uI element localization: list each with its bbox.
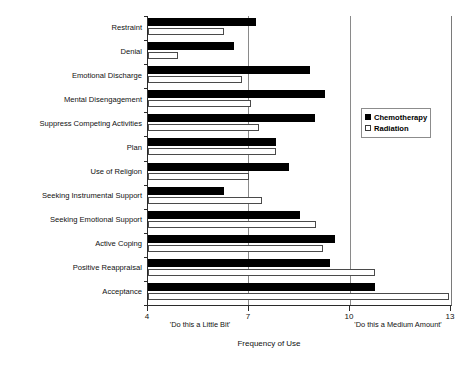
x-axis-tick-label: 4	[145, 312, 149, 322]
bar-chemotherapy	[148, 187, 224, 195]
bar-group	[148, 161, 451, 183]
bar-group	[148, 209, 451, 231]
category-label: Seeking Instrumental Support	[0, 191, 142, 200]
category-label: Restraint	[0, 23, 142, 32]
y-axis-tick	[144, 185, 148, 186]
y-axis-tick	[144, 88, 148, 89]
category-label: Suppress Competing Activities	[0, 119, 142, 128]
bar-radiation	[148, 52, 178, 59]
bar-group	[148, 185, 451, 207]
bar-radiation	[148, 124, 259, 131]
filled-square-icon	[365, 114, 371, 120]
bar-chemotherapy	[148, 138, 276, 146]
bar-radiation	[148, 148, 276, 155]
y-axis-tick	[144, 16, 148, 17]
bar-radiation	[148, 221, 316, 228]
bar-chemotherapy	[148, 66, 310, 74]
bar-chemotherapy	[148, 211, 300, 219]
bar-group	[148, 281, 451, 303]
x-axis-tick	[248, 306, 249, 311]
bar-chemotherapy	[148, 18, 256, 26]
x-axis-tick-label: 7	[246, 312, 250, 322]
category-label: Seeking Emotional Support	[0, 215, 142, 224]
y-axis-tick	[144, 209, 148, 210]
bar-chemotherapy	[148, 283, 375, 291]
category-label: Positive Reappraisal	[0, 263, 142, 272]
bar-group	[148, 257, 451, 279]
bar-group	[148, 64, 451, 86]
x-axis-tick-label: 10	[345, 312, 354, 322]
y-axis-tick	[144, 112, 148, 113]
y-axis-tick	[144, 257, 148, 258]
y-axis-tick	[144, 161, 148, 162]
legend: Chemotherapy Radiation	[361, 108, 431, 138]
y-axis-tick	[144, 233, 148, 234]
category-label: Acceptance	[0, 287, 142, 296]
bar-chemotherapy	[148, 163, 289, 171]
bar-radiation	[148, 293, 449, 300]
legend-item-radiation: Radiation	[365, 123, 427, 133]
bar-radiation	[148, 197, 262, 204]
bar-radiation	[148, 173, 249, 180]
bar-radiation	[148, 269, 375, 276]
category-axis-labels: RestraintDenialEmotional DischargeMental…	[0, 16, 142, 305]
y-axis-tick	[144, 40, 148, 41]
plot-area	[147, 16, 452, 306]
bar-radiation	[148, 100, 251, 107]
category-label: Active Coping	[0, 239, 142, 248]
category-label: Plan	[0, 143, 142, 152]
x-axis-tick	[147, 306, 148, 311]
bar-chemotherapy	[148, 259, 330, 267]
high-anchor-note: 'Do this a Medium Amount'	[354, 320, 441, 329]
bar-group	[148, 233, 451, 255]
bar-chemotherapy	[148, 42, 234, 50]
bar-chemotherapy	[148, 90, 325, 98]
bar-radiation	[148, 245, 323, 252]
bar-radiation	[148, 28, 224, 35]
x-axis-tick	[450, 306, 451, 311]
category-label: Mental Disengagement	[0, 95, 142, 104]
x-axis-tick-label: 13	[446, 312, 455, 322]
bar-group	[148, 136, 451, 158]
category-label: Denial	[0, 47, 142, 56]
bar-chemotherapy	[148, 235, 335, 243]
bar-radiation	[148, 76, 242, 83]
x-axis-tick	[349, 306, 350, 311]
x-axis-title: Frequency of Use	[237, 339, 300, 349]
bar-chemotherapy	[148, 114, 315, 122]
legend-label: Radiation	[374, 124, 409, 133]
low-anchor-note: 'Do this a Little Bit'	[170, 320, 230, 329]
bar-chart: RestraintDenialEmotional DischargeMental…	[0, 0, 466, 365]
category-label: Emotional Discharge	[0, 71, 142, 80]
category-label: Use of Religion	[0, 167, 142, 176]
open-square-icon	[365, 125, 371, 131]
y-axis-tick	[144, 136, 148, 137]
y-axis-tick	[144, 64, 148, 65]
bar-group	[148, 40, 451, 62]
bar-group	[148, 16, 451, 38]
legend-item-chemotherapy: Chemotherapy	[365, 112, 427, 122]
y-axis-tick	[144, 281, 148, 282]
legend-label: Chemotherapy	[374, 113, 427, 122]
